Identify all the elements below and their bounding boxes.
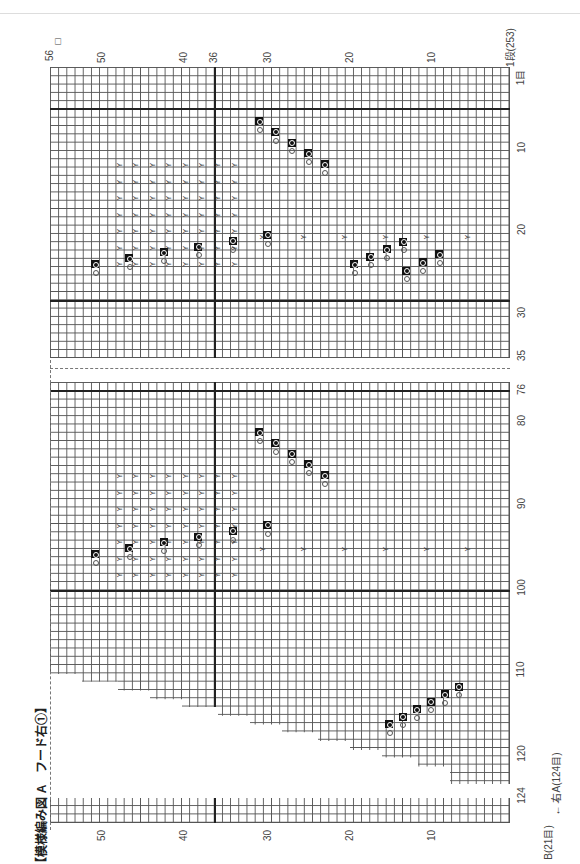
decrease-icon: ⅄ — [181, 260, 189, 268]
decrease-icon: ⅄ — [213, 505, 221, 513]
stitch-label-124: 124 — [516, 787, 527, 804]
decrease-icon: ⅄ — [148, 227, 156, 235]
row-label-start: 1段(253) — [502, 28, 517, 67]
decrease-icon: ⅄ — [131, 472, 139, 480]
row-label-40: 40 — [178, 52, 189, 63]
decrease-icon: ⅄ — [213, 194, 221, 202]
yarn-over-icon — [413, 713, 421, 721]
filled-stitch-icon — [419, 258, 427, 266]
decrease-icon: ⅄ — [131, 260, 139, 268]
decrease-icon: ⅄ — [148, 244, 156, 252]
decrease-icon: ⅄ — [213, 260, 221, 268]
decrease-icon: ⅄ — [258, 233, 266, 241]
yarn-over-icon — [288, 147, 296, 155]
decrease-icon: ⅄ — [197, 244, 205, 252]
decrease-icon: ⅄ — [115, 555, 123, 563]
stitch-label-30: 30 — [516, 307, 527, 318]
chart-title: 【模様編み図 A フード右①】 — [32, 669, 49, 864]
decrease-icon: ⅄ — [197, 227, 205, 235]
decrease-icon: ⅄ — [115, 211, 123, 219]
stitch-label-100: 100 — [516, 579, 527, 596]
decrease-icon: ⅄ — [381, 233, 389, 241]
decrease-icon: ⅄ — [148, 211, 156, 219]
decrease-icon: ⅄ — [115, 538, 123, 546]
chart-panel-bottom — [50, 382, 510, 822]
yarn-over-icon — [441, 698, 449, 706]
decrease-icon: ⅄ — [197, 522, 205, 530]
bottom-row-label-50: 50 — [96, 830, 107, 841]
decrease-icon: ⅄ — [164, 194, 172, 202]
stitch-marker-36: 36 — [208, 52, 219, 63]
decrease-icon: ⅄ — [181, 244, 189, 252]
decrease-icon: ⅄ — [148, 505, 156, 513]
decrease-icon: ⅄ — [164, 505, 172, 513]
decrease-icon: ⅄ — [131, 522, 139, 530]
decrease-icon: ⅄ — [164, 555, 172, 563]
stitch-label-10: 10 — [516, 142, 527, 153]
filled-stitch-icon — [321, 471, 329, 479]
decrease-icon: ⅄ — [131, 227, 139, 235]
filled-stitch-icon — [263, 521, 271, 529]
yarn-over-icon — [455, 691, 463, 699]
decrease-icon: ⅄ — [164, 538, 172, 546]
bottom-row-label-10: 10 — [426, 830, 437, 841]
filled-stitch-icon — [399, 713, 407, 721]
decrease-icon: ⅄ — [131, 178, 139, 186]
filled-stitch-icon — [441, 690, 449, 698]
decrease-icon: ⅄ — [181, 161, 189, 169]
yarn-over-icon — [399, 721, 407, 729]
yarn-over-icon — [91, 558, 99, 566]
filled-stitch-icon — [435, 250, 443, 258]
filled-stitch-icon — [321, 160, 329, 168]
decrease-icon: ⅄ — [197, 211, 205, 219]
decrease-icon: ⅄ — [181, 472, 189, 480]
decrease-icon: ⅄ — [181, 194, 189, 202]
stitch-label-90: 90 — [516, 498, 527, 509]
decrease-icon: ⅄ — [115, 244, 123, 252]
decrease-icon: ⅄ — [131, 489, 139, 497]
decrease-icon: ⅄ — [131, 244, 139, 252]
row-label-50: 50 — [96, 52, 107, 63]
decrease-icon: ⅄ — [230, 211, 238, 219]
decrease-icon: ⅄ — [230, 260, 238, 268]
yarn-over-icon — [263, 529, 271, 537]
thick-line-stitch-6 — [50, 108, 510, 110]
filled-stitch-icon — [91, 260, 99, 268]
decrease-icon: ⅄ — [213, 472, 221, 480]
bottom-row-label-30: 30 — [262, 830, 273, 841]
decrease-icon: ⅄ — [164, 244, 172, 252]
yarn-over-icon — [194, 251, 202, 259]
stitch-label-76: 76 — [516, 384, 527, 395]
decrease-icon: ⅄ — [164, 260, 172, 268]
decrease-icon: ⅄ — [299, 545, 307, 553]
decrease-staircase-gap — [50, 784, 510, 798]
yarn-over-icon — [321, 168, 329, 176]
stitch-label-35: 35 — [516, 350, 527, 361]
decrease-icon: ⅄ — [164, 227, 172, 235]
decrease-icon: ⅄ — [197, 178, 205, 186]
decrease-icon: ⅄ — [181, 489, 189, 497]
decrease-icon: ⅄ — [181, 522, 189, 530]
decrease-icon: ⅄ — [115, 194, 123, 202]
decrease-icon: ⅄ — [115, 161, 123, 169]
thick-line-stitch-76 — [50, 390, 510, 392]
decrease-icon: ⅄ — [164, 472, 172, 480]
filled-stitch-icon — [350, 260, 358, 268]
yarn-over-icon — [255, 125, 263, 133]
decrease-icon: ⅄ — [148, 538, 156, 546]
decrease-icon: ⅄ — [148, 489, 156, 497]
decrease-icon: ⅄ — [131, 538, 139, 546]
decrease-icon: ⅄ — [213, 244, 221, 252]
decrease-icon: ⅄ — [463, 233, 471, 241]
bottom-row-label-40: 40 — [178, 830, 189, 841]
filled-stitch-icon — [91, 550, 99, 558]
row-label-30: 30 — [262, 52, 273, 63]
yarn-over-icon — [271, 136, 279, 144]
thick-line-stitch-28 — [50, 300, 510, 302]
yarn-over-icon — [385, 728, 393, 736]
yarn-over-icon — [304, 469, 312, 477]
decrease-icon: ⅄ — [148, 260, 156, 268]
yarn-over-icon — [366, 261, 374, 269]
decrease-icon: ⅄ — [213, 227, 221, 235]
filled-stitch-icon — [427, 698, 435, 706]
